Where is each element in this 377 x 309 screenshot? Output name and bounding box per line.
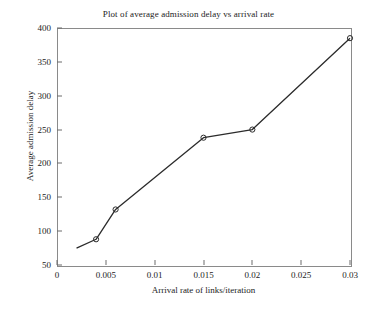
y-axis-label: Average admission delay [25,36,35,236]
y-tick-mark [57,265,62,266]
x-tick-mark [57,260,58,265]
y-tick-mark [57,231,62,232]
x-tick-mark [203,260,204,265]
y-tick-mark [57,95,62,96]
y-tick-label: 250 [38,125,52,135]
x-tick-mark [105,260,106,265]
x-axis-tick-labels: 00.0050.010.0150.020.0250.03 [0,270,377,283]
x-tick-label: 0.025 [291,270,311,280]
y-tick-label: 50 [42,260,51,270]
y-tick-mark [57,28,62,29]
x-tick-mark [154,260,155,265]
y-tick-mark [57,163,62,164]
y-tick-label: 400 [38,23,52,33]
y-tick-label: 300 [38,91,52,101]
y-tick-label: 350 [38,57,52,67]
plot-data-area [57,28,350,265]
x-tick-label: 0.005 [96,270,116,280]
x-tick-label: 0.015 [193,270,213,280]
y-tick-label: 200 [38,158,52,168]
data-series-group [77,36,353,249]
x-tick-label: 0 [55,270,60,280]
y-tick-label: 100 [38,226,52,236]
x-tick-mark [252,260,253,265]
chart-figure: Plot of average admission delay vs arriv… [0,0,377,309]
x-tick-label: 0.02 [244,270,260,280]
x-axis-label: Arrival rate of links/iteration [57,285,350,295]
x-tick-label: 0.01 [147,270,163,280]
chart-title: Plot of average admission delay vs arriv… [0,9,377,19]
x-tick-label: 0.03 [342,270,358,280]
y-tick-label: 150 [38,192,52,202]
x-tick-mark [350,260,351,265]
y-tick-mark [57,129,62,130]
y-tick-mark [57,197,62,198]
x-tick-mark [301,260,302,265]
y-tick-mark [57,61,62,62]
series-line [77,38,350,248]
